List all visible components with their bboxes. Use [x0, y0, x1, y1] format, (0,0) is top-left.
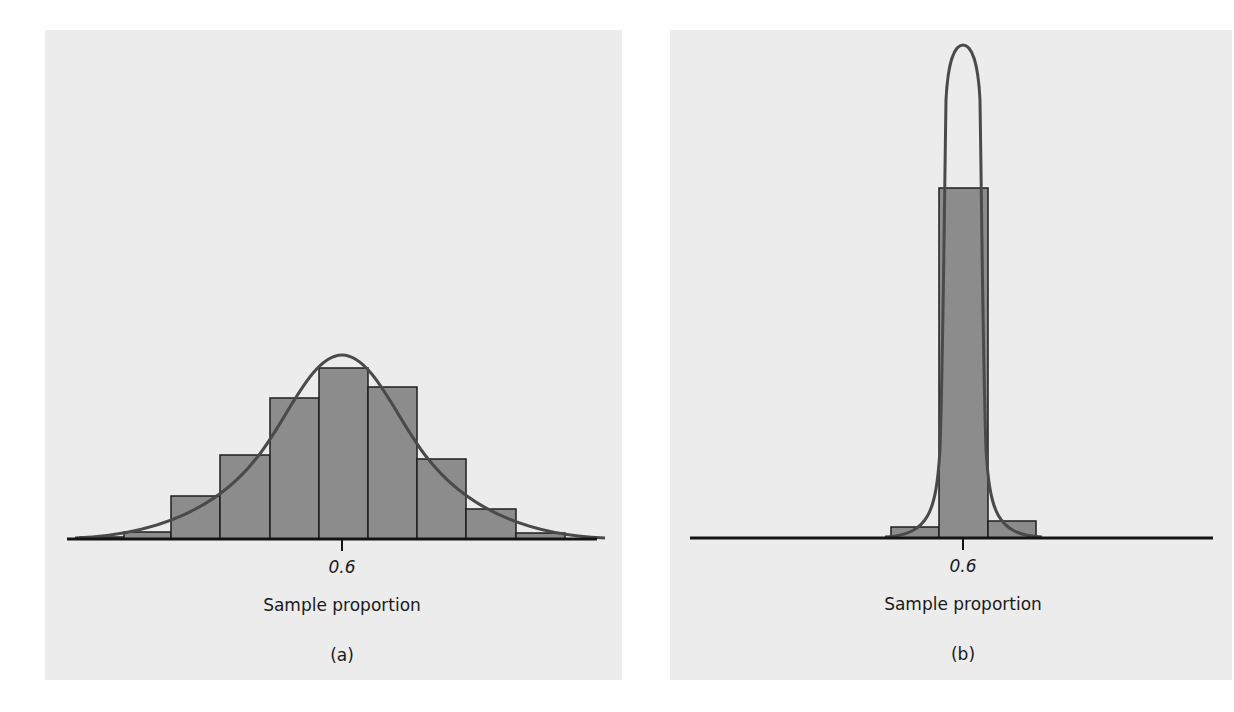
panel-label-a: (a): [292, 645, 392, 665]
bar: [220, 455, 270, 539]
panel-label-b: (b): [913, 644, 1013, 664]
x-axis-title-b: Sample proportion: [813, 594, 1113, 614]
x-tick-label-a: 0.6: [292, 557, 392, 577]
panel-a: 0.6 Sample proportion (a): [45, 30, 622, 680]
bars-b: [891, 188, 1036, 538]
x-tick-label-b: 0.6: [913, 556, 1013, 576]
histogram-a: [45, 30, 622, 680]
histogram-b: [670, 30, 1232, 680]
panel-b: 0.6 Sample proportion (b): [670, 30, 1232, 680]
bar: [270, 398, 319, 539]
bar: [319, 368, 368, 539]
bars-a: [80, 368, 565, 539]
bar: [417, 459, 466, 539]
x-axis-title-a: Sample proportion: [192, 595, 492, 615]
bar: [368, 387, 417, 539]
bar: [466, 509, 516, 539]
